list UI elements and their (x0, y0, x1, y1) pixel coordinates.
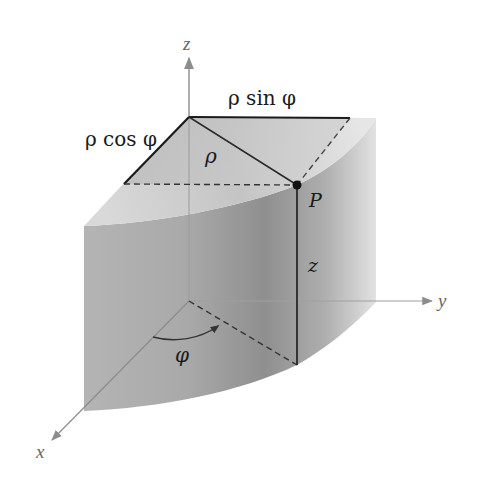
z-axis-label: z (182, 33, 191, 54)
height-z-label: z (307, 254, 319, 276)
point-p-label: P (308, 189, 323, 211)
point-p-marker (293, 181, 302, 190)
cylindrical-coordinates-diagram: z y x P ρ ρ sin φ ρ cos φ z φ (0, 0, 479, 483)
rho-sin-phi-edge (189, 117, 350, 118)
x-axis-label: x (35, 441, 45, 462)
rho-cos-phi-label: ρ cos φ (85, 127, 157, 151)
rho-label: ρ (204, 144, 217, 168)
rho-sin-phi-label: ρ sin φ (228, 86, 296, 110)
phi-angle-label: φ (175, 343, 189, 367)
y-axis-label: y (436, 290, 447, 311)
